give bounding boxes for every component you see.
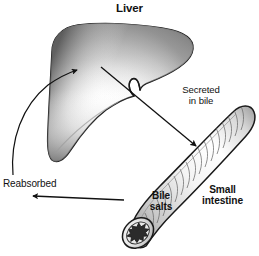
bile-salt-circulation-diagram: Liver Secreted in bile Small intestine B… [0,0,259,256]
label-secreted-in-bile: Secreted in bile [165,85,237,106]
diagram-canvas [0,0,259,256]
label-small-intestine: Small intestine [186,184,259,207]
label-liver: Liver [0,2,259,15]
label-reabsorbed: Reabsorbed [3,178,93,189]
reabsorbed-arrow-horizontal [33,196,124,200]
small-intestine-organ [116,104,255,254]
label-bile-salts: Bile salts [141,190,181,212]
